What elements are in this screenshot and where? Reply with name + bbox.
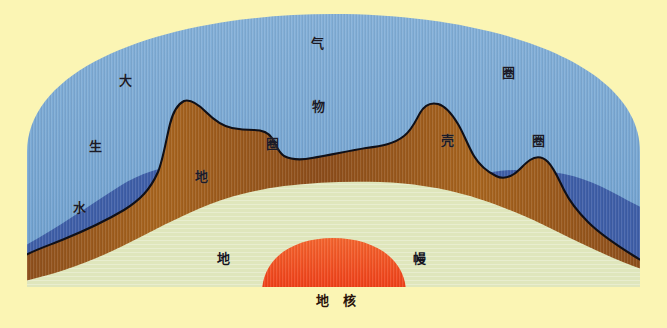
earth-spheres-diagram: 大 气 圈 生 物 圈 圈 水 地 壳 地 幔 地 核 [0, 0, 667, 328]
earth-cross-section-illustration [0, 0, 667, 328]
